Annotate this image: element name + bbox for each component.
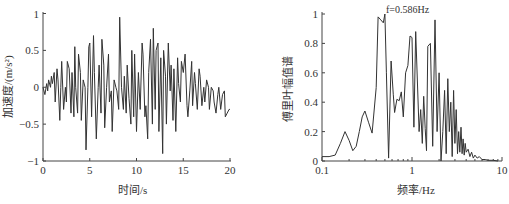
fourier-amplitude-series-line	[322, 14, 498, 161]
right-ticks: 0.111000.20.40.60.81	[304, 8, 508, 176]
y-tick-label: 0.5	[25, 44, 39, 56]
left-x-axis-title: 时间/s	[118, 184, 147, 196]
y-tick-label: 0.4	[304, 96, 318, 108]
y-tick-label: 0	[313, 155, 319, 167]
y-tick-label: 0.6	[304, 67, 318, 79]
x-tick-label: 15	[178, 164, 190, 176]
time-history-chart: 05101520−1−0.500.51 时间/s 加速度/(m/s²)	[1, 8, 236, 197]
y-tick-label: −0.5	[19, 118, 39, 130]
acceleration-series-line	[43, 17, 230, 153]
right-x-axis-title: 频率/Hz	[397, 183, 435, 196]
x-tick-label: 10	[131, 164, 143, 176]
figure: 05101520−1−0.500.51 时间/s 加速度/(m/s²) 0.11…	[0, 0, 509, 204]
y-tick-label: 1	[313, 8, 319, 20]
right-y-axis-title: 傅里叶幅值谱	[281, 56, 294, 122]
x-tick-label: 20	[225, 164, 237, 176]
left-y-axis-title: 加速度/(m/s²)	[1, 55, 15, 118]
x-tick-label: 0	[40, 164, 46, 176]
x-tick-label: 1	[409, 164, 415, 176]
y-tick-label: 0	[34, 81, 40, 93]
peak-frequency-annotation: f=0.586Hz	[386, 4, 430, 15]
x-tick-label: 5	[87, 164, 93, 176]
right-axes	[322, 12, 502, 161]
fourier-spectrum-chart: 0.111000.20.40.60.81 f=0.586Hz 频率/Hz 傅里叶…	[281, 4, 508, 196]
y-tick-label: 0.2	[304, 126, 318, 138]
x-tick-label: 10	[497, 164, 509, 176]
y-tick-label: 1	[34, 8, 40, 20]
y-tick-label: 0.8	[304, 37, 318, 49]
y-tick-label: −1	[27, 155, 39, 167]
